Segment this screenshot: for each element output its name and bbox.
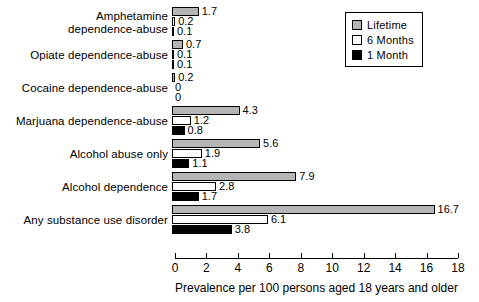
x-axis-tick (364, 253, 365, 258)
bar-value-label: 16.7 (438, 204, 459, 215)
bar-value-label: 0.1 (177, 59, 192, 70)
bar-one (172, 126, 185, 135)
x-axis-tick-label: 2 (203, 262, 210, 275)
bar-value-label: 3.8 (235, 224, 250, 235)
bar-one (172, 192, 199, 201)
bar-value-label: 1.7 (202, 191, 217, 202)
plot-area: Amphetaminedependence-abuse1.70.20.1Opia… (0, 6, 479, 237)
x-axis-tick (395, 253, 396, 258)
bar-value-label: 1.7 (202, 6, 217, 17)
bar-group: 4.31.20.8 (172, 105, 479, 138)
x-axis-tick-label: 8 (297, 262, 304, 275)
bar-lifetime (172, 205, 435, 214)
x-axis-tick (269, 253, 270, 258)
x-axis-tick (175, 253, 176, 258)
x-axis-tick-label: 10 (326, 262, 339, 275)
category-label: Any substance use disorder (0, 214, 172, 227)
bar-six (172, 17, 175, 26)
chart-group-row: Amphetaminedependence-abuse1.70.20.1 (0, 6, 479, 39)
x-axis: 024681012141618 (175, 258, 458, 259)
bar-one (172, 159, 189, 168)
bar-one (172, 27, 174, 36)
x-axis-tick-label: 18 (451, 262, 464, 275)
bar-chart: Lifetime 6 Months 1 Month Amphetaminedep… (0, 0, 479, 302)
bar-one (172, 225, 232, 234)
chart-group-row: Any substance use disorder16.76.13.8 (0, 204, 479, 237)
x-axis-tick-label: 0 (172, 262, 179, 275)
x-axis-tick (301, 253, 302, 258)
bar-six (172, 215, 268, 224)
chart-group-row: Alcohol dependence7.92.81.7 (0, 171, 479, 204)
category-label: Opiate dependence-abuse (0, 49, 172, 62)
bar-value-label: 1.1 (192, 158, 207, 169)
x-axis-tick-label: 4 (235, 262, 242, 275)
bar-value-label: 0.8 (188, 125, 203, 136)
x-axis-tick (458, 253, 459, 258)
bar-group: 7.92.81.7 (172, 171, 479, 204)
category-label: Alcohol abuse only (0, 148, 172, 161)
category-label: Marjuana dependence-abuse (0, 115, 172, 128)
bar-six (172, 50, 174, 59)
x-axis-tick-label: 12 (357, 262, 370, 275)
category-label: Alcohol dependence (0, 181, 172, 194)
bar-value-label: 0 (175, 92, 181, 103)
x-axis-tick (238, 253, 239, 258)
x-axis-title: Prevalence per 100 persons aged 18 years… (175, 281, 458, 295)
bar-group: 1.70.20.1 (172, 6, 479, 39)
bar-one (172, 60, 174, 69)
bar-group: 0.70.10.1 (172, 39, 479, 72)
x-axis-tick (206, 253, 207, 258)
x-axis-tick (427, 253, 428, 258)
chart-group-row: Cocaine dependence-abuse0.200 (0, 72, 479, 105)
bar-value-label: 5.6 (263, 138, 278, 149)
bar-group: 16.76.13.8 (172, 204, 479, 237)
chart-group-row: Alcohol abuse only5.61.91.1 (0, 138, 479, 171)
bar-value-label: 7.9 (299, 171, 314, 182)
bar-value-label: 6.1 (271, 214, 286, 225)
bar-group: 5.61.91.1 (172, 138, 479, 171)
bar-value-label: 2.8 (219, 181, 234, 192)
bar-lifetime (172, 172, 296, 181)
category-label: Amphetaminedependence-abuse (0, 10, 172, 35)
x-axis-tick-label: 14 (388, 262, 401, 275)
chart-group-row: Opiate dependence-abuse0.70.10.1 (0, 39, 479, 72)
bar-group: 0.200 (172, 72, 479, 105)
bar-value-label: 4.3 (243, 105, 258, 116)
chart-group-row: Marjuana dependence-abuse4.31.20.8 (0, 105, 479, 138)
category-label: Cocaine dependence-abuse (0, 82, 172, 95)
x-axis-tick-label: 16 (420, 262, 433, 275)
bar-value-label: 0.1 (177, 26, 192, 37)
x-axis-tick (332, 253, 333, 258)
x-axis-tick-label: 6 (266, 262, 273, 275)
